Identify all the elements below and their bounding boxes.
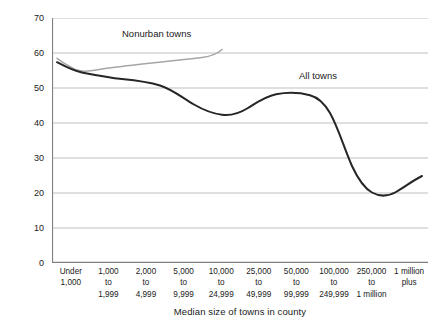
y-tick-label-50: 50	[18, 83, 44, 93]
x-tick-label-9: 1 million plus	[390, 266, 428, 304]
series-line-all-towns	[57, 62, 422, 195]
x-axis-title: Median size of towns in county	[52, 306, 428, 317]
y-tick-label-60: 60	[18, 48, 44, 58]
plot-svg	[52, 18, 428, 263]
x-tick-label-4: 10,000 to 24,999	[202, 266, 240, 304]
x-tick-label-3: 5,000 to 9,999	[165, 266, 203, 304]
x-tick-label-6: 50,000 to 99,999	[278, 266, 316, 304]
series-annotation-all-towns: All towns	[299, 70, 337, 81]
y-tick-label-70: 70	[18, 13, 44, 23]
x-axis-tick-labels: Under 1,000 1,000 to 1,999 2,000 to 4,99…	[52, 266, 428, 304]
x-tick-label-5: 25,000 to 49,999	[240, 266, 278, 304]
chart-container: Percent that voted for McCain 70 60 50 4…	[0, 0, 437, 330]
y-tick-label-40: 40	[18, 118, 44, 128]
gridlines	[52, 18, 428, 228]
series-annotation-nonurban-towns: Nonurban towns	[122, 28, 191, 39]
plot-area	[52, 18, 428, 263]
y-tick-label-0: 0	[18, 258, 44, 268]
x-tick-label-0: Under 1,000	[52, 266, 90, 304]
y-tick-label-20: 20	[18, 188, 44, 198]
x-tick-label-2: 2,000 to 4,999	[127, 266, 165, 304]
x-tick-label-8: 250,000 to 1 million	[353, 266, 391, 304]
y-tick-label-30: 30	[18, 153, 44, 163]
x-tick-label-7: 100,000 to 249,999	[315, 266, 353, 304]
x-tick-label-1: 1,000 to 1,999	[90, 266, 128, 304]
y-tick-label-10: 10	[18, 223, 44, 233]
